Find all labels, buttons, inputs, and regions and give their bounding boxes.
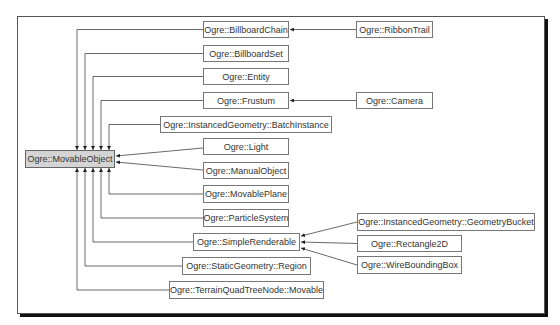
edge-geometrybucket	[301, 222, 357, 236]
class-node-billboardchain[interactable]: Ogre::BillboardChain	[203, 21, 289, 38]
class-label: Ogre::ManualObject	[206, 166, 287, 176]
class-node-movableplane[interactable]: Ogre::MovablePlane	[203, 185, 289, 203]
class-node-frustum[interactable]: Ogre::Frustum	[203, 92, 289, 109]
class-node-manualobject[interactable]: Ogre::ManualObject	[203, 162, 289, 179]
edge-billboardset	[85, 54, 203, 151]
edge-movableplane	[109, 168, 203, 194]
class-label: Ogre::InstancedGeometry::GeometryBucket	[358, 217, 534, 227]
class-label: Ogre::Frustum	[217, 96, 275, 106]
class-node-terrainmovable[interactable]: Ogre::TerrainQuadTreeNode::Movable	[169, 281, 324, 299]
class-label: Ogre::SimpleRenderable	[197, 237, 296, 247]
class-node-rectangle2d[interactable]: Ogre::Rectangle2D	[357, 235, 462, 252]
class-label: Ogre::MovableObject	[27, 154, 112, 164]
class-node-entity[interactable]: Ogre::Entity	[203, 68, 289, 85]
class-label: Ogre::WireBoundingBox	[361, 260, 458, 270]
class-node-movableobject[interactable]: Ogre::MovableObject	[25, 150, 115, 168]
class-label: Ogre::Entity	[222, 72, 270, 82]
class-label: Ogre::InstancedGeometry::BatchInstance	[163, 120, 329, 130]
class-node-geometrybucket[interactable]: Ogre::InstancedGeometry::GeometryBucket	[357, 213, 535, 231]
class-node-particlesystem[interactable]: Ogre::ParticleSystem	[203, 209, 289, 227]
edge-manualobject	[116, 162, 203, 170]
edge-particlesystem	[101, 168, 203, 218]
class-label: Ogre::BillboardSet	[209, 49, 283, 59]
edge-entity	[93, 77, 203, 151]
class-label: Ogre::BillboardChain	[204, 25, 288, 35]
class-node-camera[interactable]: Ogre::Camera	[356, 92, 433, 109]
class-label: Ogre::TerrainQuadTreeNode::Movable	[170, 285, 323, 295]
class-label: Ogre::RibbonTrail	[359, 25, 430, 35]
class-node-staticregion[interactable]: Ogre::StaticGeometry::Region	[182, 257, 311, 275]
class-node-batchinstance[interactable]: Ogre::InstancedGeometry::BatchInstance	[160, 116, 332, 133]
class-node-simplerenderable[interactable]: Ogre::SimpleRenderable	[193, 233, 300, 251]
edge-rectangle2d	[301, 242, 357, 244]
edge-staticregion	[85, 168, 182, 266]
class-label: Ogre::MovablePlane	[205, 189, 287, 199]
edge-batchinstance	[109, 125, 160, 151]
class-node-light[interactable]: Ogre::Light	[203, 138, 289, 155]
class-label: Ogre::Rectangle2D	[371, 239, 448, 249]
edge-light	[116, 148, 203, 156]
edge-terrainmovable	[77, 168, 169, 290]
class-node-wireboundingbox[interactable]: Ogre::WireBoundingBox	[357, 256, 462, 274]
class-node-ribbontrail[interactable]: Ogre::RibbonTrail	[356, 21, 433, 38]
class-node-billboardset[interactable]: Ogre::BillboardSet	[203, 45, 289, 62]
class-label: Ogre::ParticleSystem	[203, 213, 288, 223]
class-label: Ogre::Camera	[366, 96, 423, 106]
class-label: Ogre::StaticGeometry::Region	[186, 261, 307, 271]
class-label: Ogre::Light	[224, 142, 269, 152]
edge-simplerenderable	[93, 168, 193, 242]
